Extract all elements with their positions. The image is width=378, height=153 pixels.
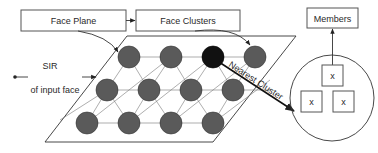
cluster-node bbox=[160, 46, 182, 68]
sir-label: SIR bbox=[42, 61, 58, 71]
face-plane-curve-arrow bbox=[78, 31, 118, 52]
cluster-node bbox=[118, 46, 140, 68]
face-plane-box: Face Plane bbox=[21, 10, 126, 31]
face-plane-label: Face Plane bbox=[51, 16, 97, 26]
cluster-node bbox=[244, 46, 266, 68]
cluster-node bbox=[118, 112, 140, 134]
cluster-node bbox=[222, 79, 244, 101]
cluster-node bbox=[96, 79, 118, 101]
svg-text:x: x bbox=[309, 97, 314, 107]
face-clusters-curve-arrow bbox=[195, 30, 250, 45]
face-clusters-box: Face Clusters bbox=[136, 10, 240, 31]
svg-text:x: x bbox=[341, 97, 346, 107]
svg-text:x: x bbox=[330, 71, 335, 81]
cluster-node bbox=[202, 112, 224, 134]
member-item: x bbox=[322, 65, 343, 86]
cluster-node bbox=[76, 112, 98, 134]
members-box: Members bbox=[307, 8, 358, 28]
members-label: Members bbox=[314, 14, 352, 24]
face-clusters-label: Face Clusters bbox=[160, 16, 216, 26]
cluster-node bbox=[180, 79, 202, 101]
member-item: x bbox=[301, 91, 322, 112]
face-cluster-diagram: Face Plane Face Clusters bbox=[0, 0, 378, 153]
cluster-node bbox=[160, 112, 182, 134]
cluster-node bbox=[138, 79, 160, 101]
member-item: x bbox=[333, 91, 354, 112]
nearest-cluster-node bbox=[202, 46, 224, 68]
input-face-label: of input face bbox=[30, 85, 79, 95]
